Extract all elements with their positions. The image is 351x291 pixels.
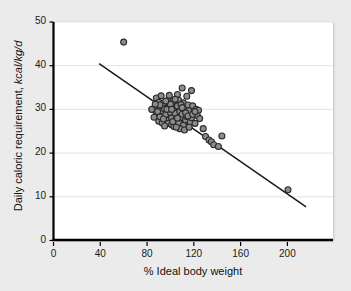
axis-spines	[52, 22, 333, 241]
y-tick-label: 50	[20, 15, 46, 26]
x-tick-label: 160	[226, 248, 256, 259]
x-tick-label: 40	[85, 248, 115, 259]
x-tick-label: 120	[179, 248, 209, 259]
x-tick-label: 200	[272, 248, 302, 259]
scatter-plot-figure: 01020304050 04080120160200 Daily caloric…	[0, 0, 351, 291]
x-tick-label: 80	[132, 248, 162, 259]
y-axis-title-main: Daily caloric requirement,	[12, 87, 24, 211]
y-axis-title-units: kcal/kg/d	[12, 41, 24, 84]
x-tick-label: 0	[39, 248, 69, 259]
axis-ticks	[50, 22, 288, 246]
x-axis-title: % Ideal body weight	[53, 265, 333, 277]
data-points	[121, 39, 291, 193]
y-axis-title: Daily caloric requirement, kcal/kg/d	[12, 26, 24, 226]
y-tick-label: 0	[20, 234, 46, 245]
